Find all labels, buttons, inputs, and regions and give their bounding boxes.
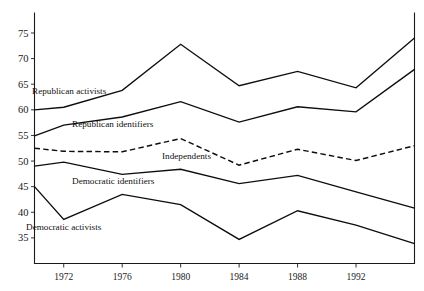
chart-figure: 354045505560657075 197219761980198419881… [0, 0, 424, 291]
y-tick-label: 50 [18, 156, 29, 167]
x-tick-label: 1972 [54, 272, 73, 282]
y-tick-label: 75 [18, 28, 29, 39]
x-tick-label: 1980 [171, 272, 190, 282]
series-line-0 [35, 38, 415, 110]
y-tick-label: 70 [18, 53, 29, 64]
y-tick-label: 65 [18, 79, 29, 90]
x-tick-label: 1976 [113, 272, 132, 282]
series-label-republican-activists: Republican activists [32, 86, 107, 96]
x-tick-label: 1992 [347, 272, 366, 282]
x-tick-label: 1988 [288, 272, 307, 282]
line-chart-canvas: 354045505560657075 197219761980198419881… [0, 0, 424, 291]
series-label-republican-identifiers: Republican identifiers [72, 119, 154, 129]
series-line-2 [35, 139, 415, 166]
y-tick-label: 45 [18, 181, 29, 192]
series-label-democratic-identifiers: Democratic identifiers [72, 176, 155, 186]
x-tick-label: 1984 [230, 272, 249, 282]
y-tick-label: 60 [18, 104, 29, 115]
x-axis-ticks: 197219761980198419881992 [54, 264, 366, 282]
top-text-fragment [112, 0, 232, 4]
y-tick-label: 55 [18, 130, 29, 141]
series-group [35, 38, 415, 243]
series-label-independents: Independents [162, 151, 211, 161]
series-line-4 [35, 187, 415, 244]
series-label-democratic-activists: Democratic activists [26, 222, 102, 232]
y-tick-label: 35 [18, 232, 29, 243]
y-axis-ticks: 354045505560657075 [18, 28, 35, 244]
y-tick-label: 40 [18, 207, 29, 218]
